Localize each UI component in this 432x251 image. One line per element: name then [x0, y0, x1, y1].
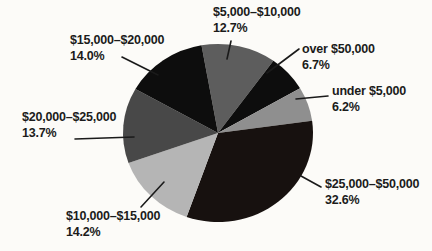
slice-label-text: $10,000–$15,000 [66, 209, 160, 225]
slice-percent-text: 6.2% [332, 100, 406, 116]
slice-label-10k-15k: $10,000–$15,000 14.2% [66, 209, 160, 240]
slice-percent-text: 13.7% [22, 126, 116, 142]
slice-label-25k-50k: $25,000–$50,000 32.6% [325, 177, 419, 208]
leader-line-25k-50k [301, 176, 321, 187]
slice-percent-text: 14.2% [66, 225, 160, 241]
slice-label-under-5k: under $5,000 6.2% [332, 84, 406, 115]
slice-label-text: $15,000–$20,000 [70, 33, 164, 49]
slice-percent-text: 6.7% [302, 58, 375, 74]
slice-label-text: $25,000–$50,000 [325, 177, 419, 193]
slice-label-text: $5,000–$10,000 [213, 5, 301, 21]
slice-label-text: $20,000–$25,000 [22, 110, 116, 126]
slice-label-text: over $50,000 [302, 42, 375, 58]
slice-label-text: under $5,000 [332, 84, 406, 100]
slice-percent-text: 14.0% [70, 49, 164, 65]
income-distribution-pie-chart: $5,000–$10,000 12.7% over $50,000 6.7% u… [0, 0, 432, 251]
slice-label-5k-10k: $5,000–$10,000 12.7% [213, 5, 301, 36]
slice-label-15k-20k: $15,000–$20,000 14.0% [70, 33, 164, 64]
slice-percent-text: 12.7% [213, 21, 301, 37]
slice-label-20k-25k: $20,000–$25,000 13.7% [22, 110, 116, 141]
slice-percent-text: 32.6% [325, 193, 419, 209]
slice-label-over-50k: over $50,000 6.7% [302, 42, 375, 73]
